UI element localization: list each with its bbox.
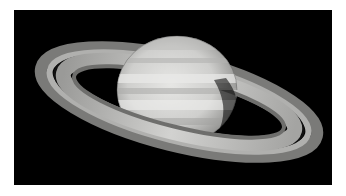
photo-frame <box>14 10 332 185</box>
saturn-photo <box>14 10 332 185</box>
